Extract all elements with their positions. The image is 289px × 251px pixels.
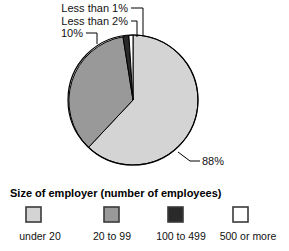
legend-label-under-20: under 20 <box>19 230 61 242</box>
leader-line-88-percent <box>178 152 200 161</box>
callout-less-than-2-label: Less than 2% <box>61 15 128 27</box>
legend-label-500-or-more: 500 or more <box>220 230 277 242</box>
legend-swatch-under-20 <box>26 207 41 222</box>
legend-title: Size of employer (number of employees) <box>10 187 222 199</box>
legend-label-20-to-99: 20 to 99 <box>93 230 131 242</box>
pie-chart-figure: Less than 1% Less than 2% 10% 88% Size o… <box>0 0 289 251</box>
legend-swatch-100-to-499 <box>168 207 183 222</box>
legend-swatch-20-to-99 <box>104 207 119 222</box>
legend-label-100-to-499: 100 to 499 <box>156 230 206 242</box>
legend-swatch-500-or-more <box>233 207 248 222</box>
callout-less-than-1-label: Less than 1% <box>61 2 128 14</box>
chart-svg: Less than 1% Less than 2% 10% 88% Size o… <box>0 0 289 251</box>
leader-line-10-percent <box>86 33 97 44</box>
callout-10-percent-label: 10% <box>61 27 83 39</box>
callout-88-percent-label: 88% <box>202 155 224 167</box>
